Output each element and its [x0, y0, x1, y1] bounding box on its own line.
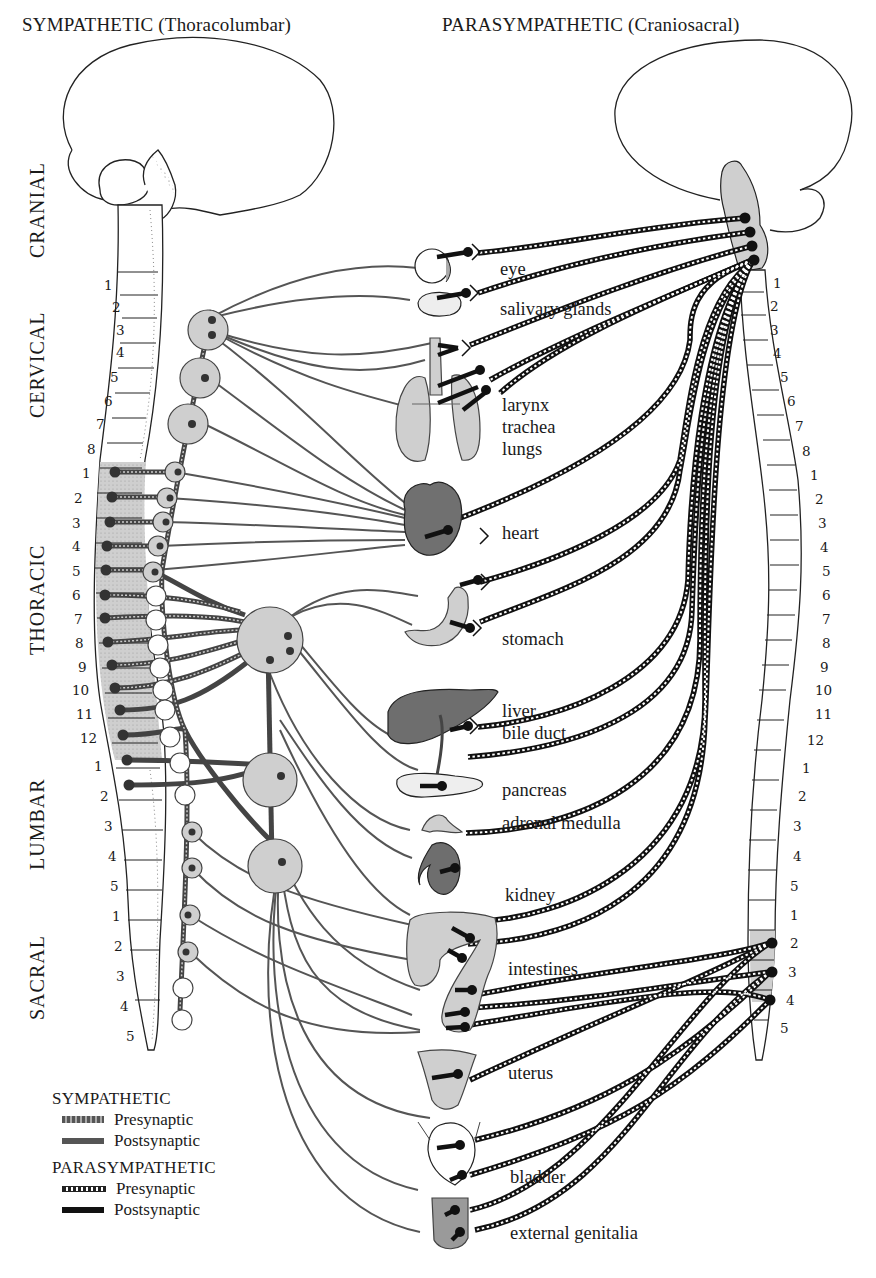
right-l5: 5 [790, 878, 799, 894]
parasympathetic-presynaptic-swatch [62, 1186, 106, 1192]
label-salivary-glands: salivary glands [500, 298, 612, 320]
left-t11: 11 [76, 706, 93, 722]
legend: SYMPATHETIC Presynaptic Postsynaptic PAR… [52, 1088, 216, 1220]
left-t12: 12 [80, 730, 97, 746]
right-c6: 6 [787, 393, 796, 409]
left-c7: 7 [96, 416, 105, 432]
left-t10: 10 [72, 682, 89, 698]
right-c4: 4 [773, 345, 782, 361]
left-c5: 5 [110, 369, 119, 385]
right-c3: 3 [770, 322, 779, 338]
label-larynx-trachea-lungs: larynx trachea lungs [502, 394, 555, 460]
region-thoracic-label: THORACIC [26, 545, 49, 655]
adrenal-organ [422, 815, 462, 833]
right-t4: 4 [820, 539, 829, 555]
right-c2: 2 [770, 298, 779, 314]
legend-sympathetic-postsynaptic: Postsynaptic [52, 1130, 216, 1151]
left-s5: 5 [126, 1028, 135, 1044]
right-c5: 5 [780, 369, 789, 385]
right-t7: 7 [822, 611, 831, 627]
left-brain [63, 38, 334, 220]
right-c7: 7 [795, 418, 804, 434]
left-c2: 2 [112, 299, 121, 315]
right-c1: 1 [773, 275, 782, 291]
right-l3: 3 [793, 818, 802, 834]
right-c8: 8 [802, 443, 811, 459]
right-t1: 1 [810, 467, 819, 483]
right-t12: 12 [807, 732, 824, 748]
left-c8: 8 [87, 441, 96, 457]
left-l4: 4 [108, 848, 117, 864]
right-t9: 9 [820, 659, 829, 675]
left-s2: 2 [114, 938, 123, 954]
right-t2: 2 [815, 491, 824, 507]
sympathetic-postsynaptic-swatch [62, 1138, 104, 1144]
left-c6: 6 [104, 393, 113, 409]
left-s3: 3 [116, 968, 125, 984]
right-t5: 5 [822, 563, 831, 579]
left-t2: 2 [74, 490, 83, 506]
right-t8: 8 [822, 635, 831, 651]
legend-parasympathetic-presynaptic: Presynaptic [52, 1178, 216, 1199]
left-t9: 9 [78, 659, 87, 675]
region-cervical-label: CERVICAL [26, 312, 49, 418]
label-eye: eye [500, 258, 526, 280]
right-s5: 5 [780, 1020, 789, 1036]
legend-parasympathetic-postsynaptic: Postsynaptic [52, 1199, 216, 1220]
label-bladder: bladder [510, 1166, 565, 1188]
left-t3: 3 [72, 515, 81, 531]
sympathetic-presynaptic-swatch [62, 1116, 104, 1123]
right-s2: 2 [790, 935, 799, 951]
left-t8: 8 [75, 635, 84, 651]
label-kidney: kidney [505, 884, 555, 906]
left-t6: 6 [72, 587, 81, 603]
right-l2: 2 [798, 788, 807, 804]
right-s3: 3 [788, 964, 797, 980]
legend-label: Presynaptic [114, 1110, 193, 1130]
left-t4: 4 [72, 538, 81, 554]
label-external-genitalia: external genitalia [510, 1222, 638, 1244]
left-l3: 3 [104, 818, 113, 834]
uterus-organ [418, 1050, 476, 1109]
left-t7: 7 [74, 611, 83, 627]
region-sacral-label: SACRAL [26, 935, 49, 1020]
right-t11: 11 [815, 706, 832, 722]
heart-organ [404, 482, 461, 555]
legend-label: Postsynaptic [114, 1131, 200, 1151]
label-liver-bile-duct: liver bile duct [502, 700, 566, 744]
right-t3: 3 [818, 515, 827, 531]
label-uterus: uterus [508, 1062, 553, 1084]
left-l1: 1 [94, 758, 103, 774]
right-t10: 10 [815, 682, 832, 698]
label-stomach: stomach [502, 628, 564, 650]
left-c4: 4 [116, 344, 125, 360]
left-s1: 1 [112, 908, 121, 924]
genitalia-organ [432, 1198, 468, 1249]
legend-label: Postsynaptic [114, 1200, 200, 1220]
lungs-organ [396, 338, 480, 461]
label-adrenal-medulla: adrenal medulla [502, 812, 621, 834]
left-c3: 3 [116, 322, 125, 338]
legend-sympathetic-presynaptic: Presynaptic [52, 1109, 216, 1130]
left-t1: 1 [82, 465, 91, 481]
right-l1: 1 [802, 760, 811, 776]
right-t6: 6 [822, 587, 831, 603]
right-l4: 4 [793, 848, 802, 864]
left-l5: 5 [110, 878, 119, 894]
legend-parasympathetic-heading: PARASYMPATHETIC [52, 1157, 216, 1178]
legend-label: Presynaptic [116, 1179, 195, 1199]
region-cranial-label: CRANIAL [26, 162, 49, 258]
left-l2: 2 [100, 788, 109, 804]
autonomic-nervous-system-diagram [0, 0, 876, 1278]
label-heart: heart [502, 522, 539, 544]
left-s4: 4 [120, 998, 129, 1014]
label-intestines: intestines [508, 958, 578, 980]
right-s1: 1 [790, 907, 799, 923]
right-s4: 4 [786, 992, 795, 1008]
label-pancreas: pancreas [502, 779, 567, 801]
legend-sympathetic-heading: SYMPATHETIC [52, 1088, 216, 1109]
left-c1: 1 [104, 277, 113, 293]
parasympathetic-postsynaptic-swatch [62, 1207, 104, 1213]
region-lumbar-label: LUMBAR [26, 778, 49, 870]
left-t5: 5 [72, 563, 81, 579]
